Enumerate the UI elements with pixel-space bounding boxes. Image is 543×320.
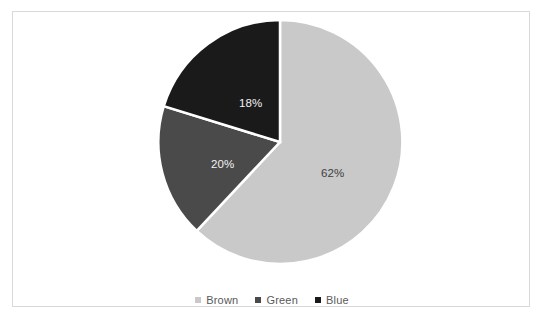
legend-swatch-green-icon xyxy=(255,297,261,303)
pie-label-green: 20% xyxy=(211,158,234,170)
legend-swatch-brown-icon xyxy=(195,297,201,303)
legend-item-green[interactable]: Green xyxy=(255,294,298,306)
pie-chart-graphic xyxy=(156,18,404,266)
pie-label-blue: 18% xyxy=(239,97,262,109)
pie-label-brown: 62% xyxy=(321,167,344,179)
legend-item-brown[interactable]: Brown xyxy=(195,294,238,306)
legend-label-green: Green xyxy=(266,294,298,306)
pie-chart-plot-area: 62% 20% 18% xyxy=(13,12,531,270)
legend-label-brown: Brown xyxy=(206,294,238,306)
legend-label-blue: Blue xyxy=(326,294,349,306)
legend-item-blue[interactable]: Blue xyxy=(315,294,349,306)
chart-frame: 62% 20% 18% Brown Green Blue xyxy=(12,11,530,307)
legend-swatch-blue-icon xyxy=(315,297,321,303)
chart-legend: Brown Green Blue xyxy=(13,294,531,306)
